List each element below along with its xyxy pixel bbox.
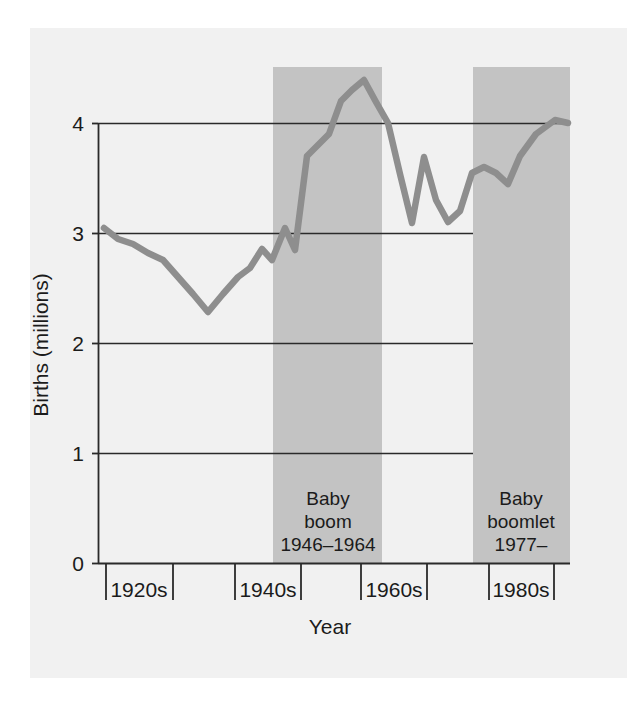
y-tick-marks xyxy=(92,124,98,564)
y-tick-label-1: 1 xyxy=(72,442,84,465)
y-tick-label-2: 2 xyxy=(72,332,84,355)
baby-boom-line-1: Baby xyxy=(306,488,350,509)
births-line-chart: 4 3 2 1 0 Births (millions) 1920s 1940s … xyxy=(0,0,638,707)
x-tick-label-1940s: 1940s xyxy=(239,578,296,601)
x-tick-label-1980s: 1980s xyxy=(492,578,549,601)
baby-boomlet-line-3: 1977– xyxy=(495,534,548,555)
x-tick-label-1960s: 1960s xyxy=(365,578,422,601)
baby-boomlet-line-1: Baby xyxy=(499,488,543,509)
y-tick-label-4: 4 xyxy=(72,112,84,135)
baby-boom-line-3: 1946–1964 xyxy=(280,534,376,555)
figure-root: 4 3 2 1 0 Births (millions) 1920s 1940s … xyxy=(0,0,638,707)
x-tick-label-1920s: 1920s xyxy=(110,578,167,601)
baby-boomlet-line-2: boomlet xyxy=(487,511,555,532)
x-tick-marks xyxy=(106,564,554,600)
x-axis-title: Year xyxy=(309,615,351,638)
baby-boom-line-2: boom xyxy=(304,511,352,532)
x-tick-labels: 1920s 1940s 1960s 1980s xyxy=(110,578,549,601)
y-axis-title: Births (millions) xyxy=(29,273,52,417)
y-tick-label-3: 3 xyxy=(72,222,84,245)
y-tick-label-0: 0 xyxy=(72,552,84,575)
y-tick-labels: 4 3 2 1 0 xyxy=(72,112,84,575)
